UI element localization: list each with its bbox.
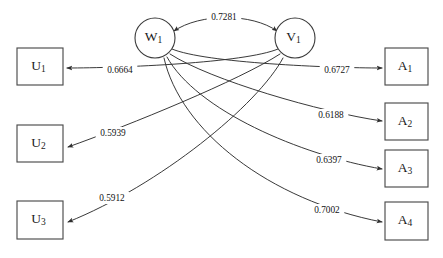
observed-node-a1[interactable]: A1 [385,48,428,85]
edge-label-w1-a2: 0.6188 [318,110,344,120]
edge-labels-layer: 0.72810.66640.59390.59120.67270.61880.63… [95,11,355,216]
latent-node-w1[interactable]: W1 [135,18,175,58]
edge-label-v1-u2: 0.5939 [100,128,126,138]
edge-label-w1-a4: 0.7002 [314,205,340,215]
path-diagram: 0.72810.66640.59390.59120.67270.61880.63… [0,0,443,258]
diagram-canvas: 0.72810.66640.59390.59120.67270.61880.63… [0,0,443,258]
observed-node-a4[interactable]: A4 [385,202,428,240]
nodes-layer: W1V1U1U2U3A1A2A3A4 [17,18,428,240]
edge-label-w1-a1: 0.6727 [324,65,350,75]
observed-node-a2[interactable]: A2 [385,103,428,140]
observed-node-u2[interactable]: U2 [17,125,63,162]
observed-node-u3[interactable]: U3 [17,201,63,239]
edge-W1-A4 [164,58,382,222]
edge-label-v1-u3: 0.5912 [99,193,125,203]
latent-node-v1[interactable]: V1 [275,18,315,58]
edge-label-v1-u1: 0.6664 [107,65,133,75]
observed-node-a3[interactable]: A3 [385,150,428,187]
observed-node-u1[interactable]: U1 [17,48,63,85]
edge-label-w1-v1: 0.7281 [211,12,237,22]
edge-label-w1-a3: 0.6397 [316,155,342,165]
